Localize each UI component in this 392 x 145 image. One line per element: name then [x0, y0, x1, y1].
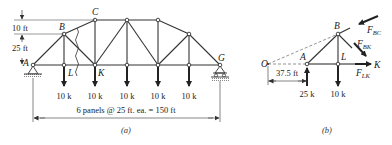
force-label-BC: FBC [366, 25, 382, 36]
node-label-B-b: B [334, 21, 340, 31]
caption-b: (b) [322, 125, 332, 135]
section-cut-line [76, 28, 79, 76]
dimension-height: 25 ft [12, 43, 28, 53]
force-label-LK: FLK [355, 68, 370, 79]
node-label-A-b: A [299, 52, 306, 62]
node-label-C: C [92, 7, 99, 17]
load-label: 10 k [120, 91, 136, 101]
member-diagonal-3 [127, 20, 158, 65]
node-label-L: L [67, 68, 73, 78]
load-label: 10 k [182, 91, 198, 101]
force-label-BK: FBK [356, 39, 372, 50]
roller-support-G [211, 66, 229, 81]
node-label-K: K [97, 68, 105, 78]
load-label: 10 k [151, 91, 167, 101]
member-diagonal-2 [95, 20, 127, 65]
truss-figure: 10 k 10 k 10 k 10 k 10 k A B C G L K 10 … [0, 0, 392, 145]
dimension-top-rise: 10 ft [12, 23, 28, 33]
node-label-K-b: K [373, 60, 381, 70]
force-BC-arrow [359, 16, 378, 24]
vertical-dimensions [14, 10, 95, 64]
node-label-G: G [218, 53, 225, 63]
member-diagonal-4 [158, 34, 189, 65]
truss-b [307, 28, 355, 64]
member-BK [64, 34, 95, 65]
reaction-label: 25 k [300, 89, 316, 99]
span-label: 6 panels @ 25 ft. ea. = 150 ft [76, 105, 176, 115]
load-label-b: 10 k [331, 89, 347, 99]
caption-a: (a) [121, 125, 131, 135]
loads-a [64, 67, 189, 86]
dimension-label-b: 37.5 ft [276, 68, 299, 78]
node-label-L-b: L [340, 52, 346, 62]
node-label-B: B [59, 22, 65, 32]
node-label-O: O [261, 59, 268, 69]
load-label: 10 k [88, 91, 104, 101]
node-label-A: A [22, 58, 29, 68]
load-label: 10 k [57, 91, 73, 101]
